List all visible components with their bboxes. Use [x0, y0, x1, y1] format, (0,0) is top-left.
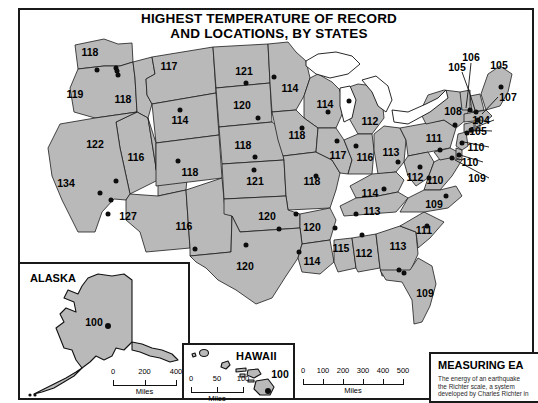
record-location-dot [277, 227, 282, 232]
alaska-scale-ticks [113, 376, 176, 386]
eq-body-line-1: The energy of an earthquake [438, 375, 538, 383]
scale-tick-label: 50 [213, 374, 221, 383]
record-location-dot [300, 126, 305, 131]
scale-tick-mark [243, 387, 244, 393]
alaska-value-label: 100 [85, 317, 103, 328]
lake-superior-shape [306, 52, 360, 78]
scale-tick-label: 500 [397, 366, 410, 375]
state-value-label: 114 [304, 256, 321, 267]
state-shape-maine [481, 66, 512, 110]
record-location-dot [402, 271, 407, 276]
scale-tick-label: 200 [138, 367, 151, 376]
state-value-label: 114 [282, 83, 299, 94]
state-value-label: 113 [364, 206, 381, 217]
main-scale-numbers: 0100200300400500 [303, 365, 403, 375]
state-value-label: 114 [317, 99, 334, 110]
state-value-label: 120 [236, 261, 254, 272]
scale-tick-mark [323, 379, 324, 385]
island-niihau-shape [192, 353, 196, 357]
scale-tick-mark [176, 380, 177, 386]
record-location-dot [253, 155, 258, 160]
scale-tick-label: 100 [317, 366, 330, 375]
state-value-label: 116 [128, 152, 145, 163]
record-location-dot [297, 250, 302, 255]
hawaii-record-dot [265, 388, 271, 394]
eq-body-line-2: the Richter scale, a system [438, 383, 538, 391]
state-value-label: 112 [407, 172, 424, 183]
record-location-dot [98, 191, 103, 196]
record-location-dot [476, 118, 481, 123]
record-location-dot [252, 168, 257, 173]
record-location-dot [418, 165, 423, 170]
state-value-label: 112 [362, 116, 379, 127]
state-shape-colorado [156, 135, 222, 186]
record-location-dot [354, 212, 359, 217]
record-location-dot [425, 224, 430, 229]
hawaii-value-label: 100 [271, 369, 289, 380]
island-kauai-shape [200, 350, 209, 357]
state-value-label: 111 [426, 133, 442, 144]
record-location-dot [333, 226, 338, 231]
state-value-label: 119 [67, 89, 84, 100]
state-value-label: 105 [448, 62, 466, 73]
record-location-dot [272, 75, 277, 80]
record-location-dot [193, 247, 198, 252]
alaska-scale-numbers: 0200400 [113, 366, 176, 376]
scale-tick-mark [383, 379, 384, 385]
record-location-dot [468, 108, 473, 113]
scale-tick-label: 300 [357, 366, 370, 375]
hawaii-scale-unit: Miles [191, 394, 243, 403]
main-scale-bar: 0100200300400500 Miles [303, 365, 403, 395]
record-location-dot [427, 176, 432, 181]
scale-tick-mark [191, 387, 192, 393]
record-location-dot [396, 160, 401, 165]
state-value-label: 118 [182, 167, 199, 178]
hawaii-scale-numbers: 050100 [191, 373, 243, 383]
main-scale-ticks [303, 375, 403, 385]
state-value-label: 108 [444, 106, 462, 117]
hawaii-scale-bar: 050100 Miles [191, 373, 243, 403]
record-location-dot [457, 153, 462, 158]
record-location-dot [256, 116, 261, 121]
state-value-label: 120 [303, 222, 321, 233]
eq-body-line-3: developed by Charles Richter in [438, 390, 538, 398]
state-value-label: 118 [115, 94, 132, 105]
state-value-label: 116 [176, 221, 193, 232]
island-molokai-shape [236, 368, 246, 372]
state-value-label: 121 [246, 176, 264, 187]
record-location-dot [326, 110, 331, 115]
state-value-label: 110 [462, 157, 479, 168]
scale-tick-label: 400 [377, 366, 390, 375]
state-value-label: 117 [330, 150, 347, 161]
page-title: HIGHEST TEMPERATURE OF RECORD AND LOCATI… [0, 12, 538, 41]
record-location-dot [438, 148, 443, 153]
state-value-label: 120 [258, 211, 276, 222]
state-value-label: 118 [289, 130, 306, 141]
alaska-record-dot [105, 323, 111, 329]
record-location-dot [244, 81, 249, 86]
alaska-panhandle-shape [132, 342, 178, 362]
island-oahu-shape [221, 361, 230, 369]
record-location-dot [460, 141, 465, 146]
record-location-dot [178, 108, 183, 113]
scale-tick-mark [145, 380, 146, 386]
scale-tick-mark [363, 379, 364, 385]
scale-tick-label: 0 [111, 367, 115, 376]
state-value-label: 106 [462, 52, 480, 63]
record-location-dot [450, 156, 455, 161]
state-value-label: 115 [333, 243, 350, 254]
record-location-dot [444, 194, 449, 199]
record-location-dot [244, 243, 249, 248]
state-value-label: 121 [235, 66, 253, 77]
scale-tick-mark [217, 387, 218, 393]
measuring-earthquakes-body: The energy of an earthquake the Richter … [438, 375, 538, 398]
state-value-label: 113 [390, 241, 407, 252]
record-location-dot [109, 198, 114, 203]
state-value-label: 114 [172, 115, 189, 126]
measuring-earthquakes-panel: MEASURING EA The energy of an earthquake… [429, 352, 538, 403]
record-location-dot [95, 68, 100, 73]
record-location-dot [294, 212, 299, 217]
record-location-dot [499, 85, 504, 90]
record-location-dot [474, 110, 479, 115]
scale-tick-label: 0 [189, 374, 193, 383]
